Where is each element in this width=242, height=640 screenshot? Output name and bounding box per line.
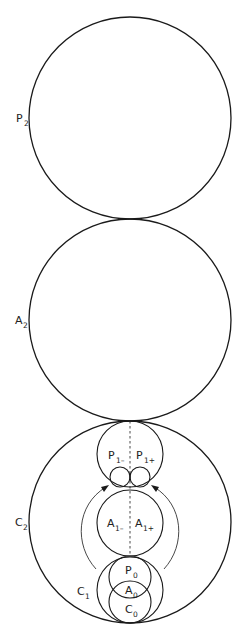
svg-text:P: P bbox=[125, 564, 132, 577]
label-c1: C 1 bbox=[77, 585, 90, 601]
svg-text:0: 0 bbox=[133, 610, 138, 619]
svg-text:C: C bbox=[77, 585, 85, 598]
svg-text:0: 0 bbox=[133, 591, 138, 600]
svg-text:2: 2 bbox=[23, 523, 28, 532]
label-p1-plus: P 1+ bbox=[136, 449, 155, 465]
label-a1-minus: A 1– bbox=[107, 517, 124, 533]
circle-p1-small-right bbox=[130, 467, 150, 487]
arrowhead-left-icon bbox=[101, 485, 109, 492]
circle-p1-small-left bbox=[110, 467, 130, 487]
svg-text:1+: 1+ bbox=[144, 456, 155, 465]
svg-text:P: P bbox=[16, 112, 23, 125]
right-curved-arrow bbox=[151, 485, 179, 569]
label-p2: P 2 bbox=[16, 112, 29, 128]
svg-text:A: A bbox=[107, 517, 115, 530]
label-a1-plus: A 1+ bbox=[135, 517, 154, 533]
arrowhead-right-icon bbox=[151, 485, 159, 492]
svg-text:C: C bbox=[125, 603, 133, 616]
svg-text:C: C bbox=[15, 516, 23, 529]
label-c0: C 0 bbox=[125, 603, 138, 619]
svg-text:1–: 1– bbox=[116, 456, 125, 465]
svg-text:0: 0 bbox=[133, 571, 138, 580]
label-p1-minus: P 1– bbox=[108, 449, 125, 465]
svg-text:1+: 1+ bbox=[143, 524, 154, 533]
svg-text:A: A bbox=[135, 517, 143, 530]
circle-a2 bbox=[29, 219, 231, 421]
label-p0: P 0 bbox=[125, 564, 138, 580]
circle-p2 bbox=[29, 17, 231, 219]
nested-circles-diagram: P 2 A 2 C 2 C 1 P 1– P 1+ A 1– A 1+ P 0 … bbox=[0, 0, 242, 640]
left-curved-arrow bbox=[81, 485, 109, 569]
label-a2: A 2 bbox=[15, 314, 28, 330]
svg-text:A: A bbox=[15, 314, 23, 327]
svg-text:2: 2 bbox=[23, 321, 28, 330]
svg-text:P: P bbox=[136, 449, 143, 462]
label-c2: C 2 bbox=[15, 516, 28, 532]
svg-text:A: A bbox=[125, 584, 133, 597]
svg-text:2: 2 bbox=[24, 119, 29, 128]
svg-text:1: 1 bbox=[85, 592, 90, 601]
svg-text:1–: 1– bbox=[115, 524, 124, 533]
svg-text:P: P bbox=[108, 449, 115, 462]
